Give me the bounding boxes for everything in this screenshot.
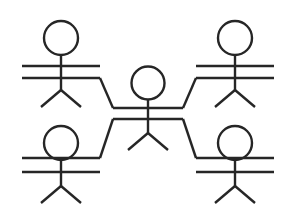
stick-figure-network-diagram: [0, 0, 296, 218]
